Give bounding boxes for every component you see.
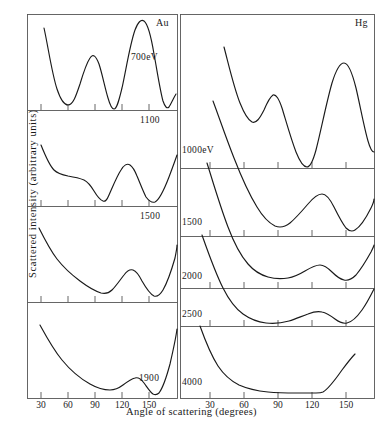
- hg-column: [181, 15, 375, 399]
- x-axis-label: Angle of scattering (degrees): [0, 406, 383, 417]
- scattering-figure: Scattered intensity (arbitrary units): [0, 0, 383, 433]
- curve-au-1100: [41, 145, 177, 202]
- panel-label-hg-2500: 2500: [182, 309, 202, 319]
- panel-label-au-700ev: 700eV: [131, 52, 158, 62]
- panel-label-au-1500: 1500: [140, 211, 160, 221]
- panel-label-au-1100: 1100: [140, 115, 160, 125]
- curve-hg-2000: [207, 163, 374, 280]
- column-label-hg: Hg: [355, 17, 368, 28]
- panel-label-hg-4000: 4000: [182, 377, 202, 387]
- curve-au-1500: [39, 228, 177, 296]
- curve-au-1900: [40, 325, 177, 395]
- curve-au-700ev: [44, 20, 176, 109]
- panel-label-hg-1000ev: 1000eV: [182, 145, 214, 155]
- curve-hg-4000: [200, 326, 355, 393]
- column-label-au: Au: [156, 17, 169, 28]
- panel-label-hg-2000: 2000: [182, 271, 202, 281]
- curve-hg-1000ev: [224, 47, 374, 167]
- panel-label-hg-1500: 1500: [182, 217, 202, 227]
- hg-column-frame: [181, 15, 375, 399]
- au-column: [28, 15, 178, 399]
- panel-label-au-1900: 1900: [139, 373, 159, 383]
- curve-hg-1500: [213, 101, 374, 231]
- curve-hg-2500: [202, 235, 374, 323]
- hg-ticks: [210, 162, 346, 398]
